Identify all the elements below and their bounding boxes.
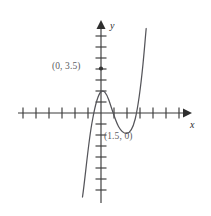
peak-point-marker	[99, 66, 103, 70]
graph-figure: y x (0, 3.5) (1.5, 0)	[0, 0, 211, 216]
annotation-label-peak: (0, 3.5)	[52, 61, 81, 71]
x-axis-label: x	[189, 119, 195, 130]
y-axis-label: y	[109, 20, 115, 31]
annotation-label-root: (1.5, 0)	[104, 131, 133, 141]
x-axis-arrow-icon	[183, 109, 192, 118]
coordinate-plane: y x	[0, 0, 211, 216]
y-axis-arrow-icon	[97, 20, 106, 29]
x-axis	[18, 108, 192, 119]
y-axis	[96, 20, 107, 203]
